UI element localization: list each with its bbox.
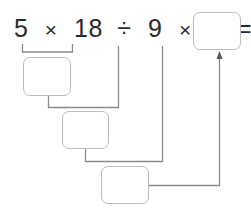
bracket-5x18: [23, 44, 73, 52]
step1-answer-box[interactable]: [23, 57, 71, 96]
connector-step3-to-result: [148, 59, 220, 186]
arrow-up-icon: [217, 51, 223, 59]
step2-answer-box[interactable]: [62, 111, 109, 149]
step3-answer-box[interactable]: [101, 166, 149, 204]
result-answer-box[interactable]: [193, 12, 241, 50]
